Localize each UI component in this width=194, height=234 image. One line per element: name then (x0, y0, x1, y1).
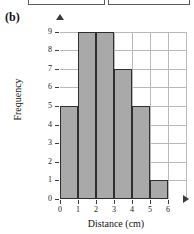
y-axis-tick (55, 125, 59, 126)
y-axis-tick (55, 50, 59, 51)
x-axis-tick (96, 200, 97, 204)
x-axis-tick (150, 200, 151, 204)
y-axis-tick (55, 180, 59, 181)
x-axis-tick (132, 200, 133, 204)
histogram-plot: 01234567890123456 (0, 0, 194, 234)
x-axis-tick (60, 200, 61, 204)
y-axis-tick (55, 143, 59, 144)
gridline-vertical (186, 32, 187, 199)
histogram-bar (132, 106, 150, 199)
x-axis-arrow (183, 195, 189, 203)
y-axis-tick (55, 87, 59, 88)
x-axis-tick-label: 0 (55, 205, 65, 214)
y-axis-tick-label: 0 (42, 194, 52, 203)
y-axis-tick-label: 2 (42, 157, 52, 166)
y-axis-title: Frequency (12, 65, 23, 135)
histogram-bar (96, 32, 114, 199)
gridline-vertical (150, 32, 151, 199)
histogram-bar (150, 180, 168, 199)
x-axis-tick-label: 5 (145, 205, 155, 214)
y-axis-tick-label: 6 (42, 82, 52, 91)
histogram-bar (78, 32, 96, 199)
y-axis-tick-label: 3 (42, 138, 52, 147)
y-axis-tick-label: 4 (42, 120, 52, 129)
y-axis-tick (55, 69, 59, 70)
x-axis-tick (168, 200, 169, 204)
x-axis-tick-label: 1 (73, 205, 83, 214)
y-axis-tick-label: 9 (42, 27, 52, 36)
x-axis-tick (78, 200, 79, 204)
y-axis-arrow (56, 14, 64, 20)
y-axis-tick-label: 5 (42, 101, 52, 110)
x-axis-tick-label: 6 (163, 205, 173, 214)
y-axis-tick (55, 106, 59, 107)
y-axis-tick (55, 32, 59, 33)
y-axis-tick (55, 199, 59, 200)
y-axis-tick-label: 1 (42, 175, 52, 184)
x-axis-tick-label: 2 (91, 205, 101, 214)
y-axis-tick-label: 7 (42, 64, 52, 73)
histogram-bar (114, 69, 132, 199)
figure-panel: (b) 01234567890123456 Frequency Distance… (0, 0, 194, 234)
x-axis-title: Distance (cm) (56, 218, 176, 229)
y-axis-tick (55, 162, 59, 163)
x-axis-tick-label: 4 (127, 205, 137, 214)
gridline-vertical (168, 32, 169, 199)
histogram-bar (60, 106, 78, 199)
x-axis-tick (114, 200, 115, 204)
y-axis-tick-label: 8 (42, 45, 52, 54)
x-axis-tick-label: 3 (109, 205, 119, 214)
